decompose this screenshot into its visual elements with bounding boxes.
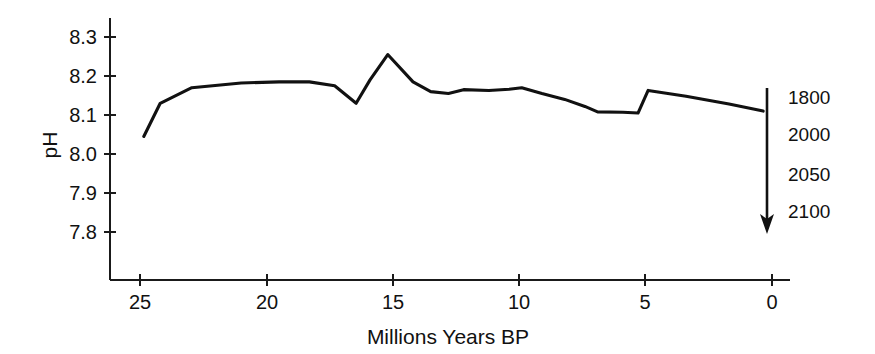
- x-axis-title: Millions Years BP: [367, 325, 529, 348]
- projection-year-label: 1800: [788, 87, 830, 108]
- projection-year-labels: 1800 2000 2050 2100: [788, 87, 830, 222]
- y-axis-tick-labels: 8.3 8.2 8.1 8.0 7.9 7.8: [69, 26, 97, 243]
- x-axis-tick-labels: 25 20 15 10 5 0: [129, 291, 778, 313]
- y-tick-label: 8.0: [69, 143, 97, 165]
- x-tick-label: 5: [639, 291, 650, 313]
- chart-canvas: 8.3 8.2 8.1 8.0 7.9 7.8 pH 25 20 15 10 5…: [0, 0, 875, 354]
- x-tick-label: 20: [256, 291, 278, 313]
- projection-year-label: 2100: [788, 201, 830, 222]
- y-tick-label: 7.9: [69, 182, 97, 204]
- ph-projection-chart: 8.3 8.2 8.1 8.0 7.9 7.8 pH 25 20 15 10 5…: [0, 0, 875, 354]
- projection-year-label: 2000: [788, 124, 830, 145]
- y-tick-label: 8.3: [69, 26, 97, 48]
- projection-year-label: 2050: [788, 164, 830, 185]
- x-tick-label: 15: [382, 291, 404, 313]
- x-tick-label: 0: [766, 291, 777, 313]
- x-tick-label: 25: [129, 291, 151, 313]
- x-tick-label: 10: [508, 291, 530, 313]
- y-axis-title: pH: [38, 132, 61, 159]
- y-tick-label: 7.8: [69, 221, 97, 243]
- ph-series-line: [144, 55, 763, 137]
- y-tick-label: 8.1: [69, 104, 97, 126]
- y-tick-label: 8.2: [69, 65, 97, 87]
